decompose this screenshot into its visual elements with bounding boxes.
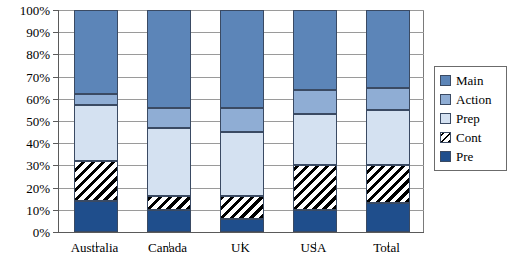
legend-swatch-pre-icon [440, 151, 451, 162]
y-tick-label: 0% [33, 226, 50, 239]
y-tickmark [53, 54, 59, 55]
bar-uk [220, 10, 264, 232]
legend-item-main[interactable]: Main [440, 71, 502, 90]
legend-swatch-cont-icon [440, 132, 451, 143]
legend-item-prep[interactable]: Prep [440, 109, 502, 128]
bar-segment-action [293, 90, 337, 114]
bar-segment-action [220, 108, 264, 132]
y-tickmark [53, 32, 59, 33]
plot-area [58, 10, 424, 233]
y-axis: 0%10%20%30%40%50%60%70%80%90%100% [0, 0, 56, 243]
bar-segment-prep [366, 110, 410, 166]
legend-item-cont[interactable]: Cont [440, 128, 502, 147]
bar-total [366, 10, 410, 232]
legend-item-pre[interactable]: Pre [440, 147, 502, 166]
y-tickmark [53, 99, 59, 100]
legend-item-action[interactable]: Action [440, 90, 502, 109]
bar-segment-pre [147, 210, 191, 232]
y-tick-label: 30% [26, 159, 50, 172]
legend-label: Prep [456, 112, 480, 125]
y-tickmark [53, 121, 59, 122]
bar-segment-cont [74, 161, 118, 201]
x-tick-label-canada: Canada [131, 240, 204, 255]
legend-swatch-main-icon [440, 75, 451, 86]
x-tick-label-australia: Australia [58, 240, 131, 255]
bar-segment-cont [147, 196, 191, 209]
bar-segment-action [366, 88, 410, 110]
y-tick-label: 80% [26, 48, 50, 61]
bar-segment-cont [366, 165, 410, 203]
bar-segment-action [74, 94, 118, 105]
y-tick-label: 20% [26, 182, 50, 195]
bar-segment-main [147, 10, 191, 108]
y-tickmark [53, 143, 59, 144]
y-tick-label: 10% [26, 204, 50, 217]
y-tickmark [53, 10, 59, 11]
chart-legend: MainActionPrepContPre [434, 66, 507, 171]
x-tick-label-total: Total [350, 240, 423, 255]
legend-label: Action [456, 93, 491, 106]
bar-segment-pre [74, 201, 118, 232]
bar-segment-cont [220, 196, 264, 218]
x-tick-label-usa: USA [277, 240, 350, 255]
y-tick-label: 50% [26, 115, 50, 128]
bar-segment-action [147, 108, 191, 128]
x-tick-label-uk: UK [204, 240, 277, 255]
bar-segment-prep [293, 114, 337, 165]
bar-segment-main [74, 10, 118, 94]
legend-swatch-prep-icon [440, 113, 451, 124]
y-tick-label: 70% [26, 71, 50, 84]
x-axis: AustraliaCanadaUKUSATotal [58, 240, 423, 264]
stacked-bar-chart: 0%10%20%30%40%50%60%70%80%90%100% Austra… [0, 0, 521, 276]
legend-label: Main [456, 74, 483, 87]
y-tick-label: 90% [26, 26, 50, 39]
bar-segment-cont [293, 165, 337, 209]
y-tickmark [53, 77, 59, 78]
bar-australia [74, 10, 118, 232]
y-tick-label: 100% [20, 4, 50, 17]
y-tickmark [53, 232, 59, 233]
bar-segment-prep [74, 105, 118, 161]
legend-swatch-action-icon [440, 94, 451, 105]
y-tick-label: 40% [26, 137, 50, 150]
bar-segment-pre [366, 203, 410, 232]
bar-canada [147, 10, 191, 232]
bar-segment-prep [220, 132, 264, 196]
y-tickmark [53, 210, 59, 211]
bar-segment-pre [293, 210, 337, 232]
y-tickmark [53, 188, 59, 189]
legend-label: Pre [456, 150, 473, 163]
bar-usa [293, 10, 337, 232]
bar-segment-main [366, 10, 410, 88]
y-tickmark [53, 165, 59, 166]
bar-segment-main [293, 10, 337, 90]
bar-segment-pre [220, 219, 264, 232]
legend-label: Cont [456, 131, 481, 144]
bar-segment-prep [147, 128, 191, 197]
y-tick-label: 60% [26, 93, 50, 106]
bar-segment-main [220, 10, 264, 108]
